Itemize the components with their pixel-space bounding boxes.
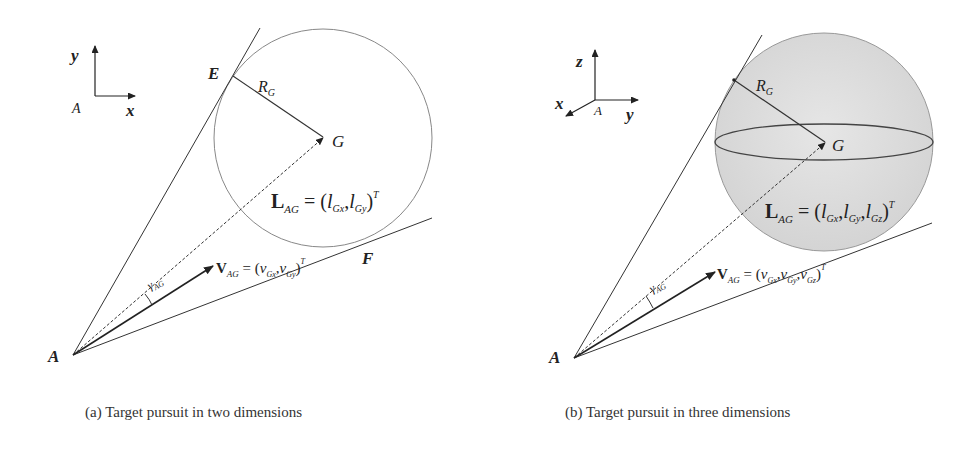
radius-label: RG [257, 78, 275, 98]
tangent-line-lower [574, 223, 932, 358]
angle-label: γAG [145, 273, 167, 295]
point-label-e: E [207, 64, 219, 83]
point-label-a: A [47, 347, 59, 366]
axis-label-z: z [575, 52, 583, 71]
v-vector-arrow [574, 272, 715, 358]
v-vector-equation: VAG = (vGx,vGy,vGz)T [717, 263, 826, 285]
tangent-line-upper [73, 28, 260, 355]
axes-2d-icon: y A x [69, 46, 135, 120]
axes-3d-icon: z x A y [554, 50, 638, 124]
l-vector-dashed [574, 143, 825, 358]
tangent-point [732, 78, 736, 82]
l-vector-equation: LAG = (lGx,lGy)T [271, 189, 380, 215]
point-label-a: A [548, 348, 560, 367]
v-vector-arrow [73, 266, 213, 355]
panel-a: y A x E RG G F A LAG = (lGx,lGy)T VAG = … [47, 28, 432, 366]
caption-b: (b) Target pursuit in three dimensions [565, 404, 790, 421]
axis-label-x: x [554, 94, 564, 113]
radius-line [233, 76, 323, 137]
angle-label: γAG [647, 276, 669, 298]
angle-arc [145, 294, 152, 305]
axis-label-x: x [125, 101, 135, 120]
angle-arc [646, 296, 653, 308]
point-label-f: F [361, 249, 374, 268]
axis-label-y: y [69, 46, 79, 65]
figure-canvas: y A x E RG G F A LAG = (lGx,lGy)T VAG = … [0, 0, 967, 455]
caption-a: (a) Target pursuit in two dimensions [85, 404, 302, 421]
l-vector-dashed [73, 138, 323, 355]
tangent-line-lower [73, 218, 432, 355]
v-vector-equation: VAG = (vGx,vGy)T [216, 257, 306, 279]
point-label-g: G [332, 132, 344, 151]
panel-b: z x A y RG G A LAG = (lGx,lGy,lGz)T VAG … [548, 33, 933, 367]
axis-label-y: y [624, 105, 634, 124]
point-label-g: G [832, 136, 844, 155]
axis-origin-label: A [593, 103, 602, 118]
axis-origin-label: A [71, 101, 81, 116]
